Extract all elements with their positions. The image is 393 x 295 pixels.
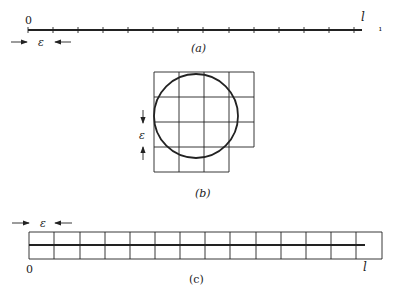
epsilon-label: ε	[40, 217, 46, 230]
epsilon-label: ε	[38, 36, 44, 49]
end-label: l	[361, 10, 365, 24]
circle-domain	[154, 74, 238, 158]
panel-label: (a)	[191, 42, 206, 55]
stray-mark: ı	[379, 24, 382, 33]
origin-label: 0	[25, 14, 32, 27]
panel-label: (b)	[195, 187, 211, 200]
panel-a: 0 l ı ε (a)	[11, 10, 382, 55]
end-label: l	[363, 260, 367, 274]
discretization-figure: 0 l ı ε (a) ε (b)	[0, 0, 393, 295]
panel-label: (c)	[189, 273, 204, 286]
panel-c: ε 0 l (c)	[12, 217, 382, 286]
panel-b: ε (b)	[139, 72, 254, 200]
origin-label: 0	[26, 263, 33, 276]
epsilon-label: ε	[139, 129, 145, 142]
